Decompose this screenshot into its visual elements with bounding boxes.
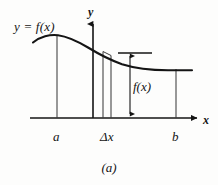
figure-caption: (a) <box>0 161 218 174</box>
tick-label-a: a <box>53 130 60 143</box>
strip-top-cap <box>103 52 111 56</box>
tick-label-b: b <box>172 130 179 143</box>
delta-x-label: Δx <box>100 130 113 143</box>
y-axis-label: y <box>88 6 93 18</box>
function-value-label: f(x) <box>133 80 151 93</box>
figure-container: y = f(x) y x a Δx b f(x) (a) <box>0 0 218 185</box>
x-axis-label: x <box>203 114 209 126</box>
curve-equation-label: y = f(x) <box>14 20 55 33</box>
